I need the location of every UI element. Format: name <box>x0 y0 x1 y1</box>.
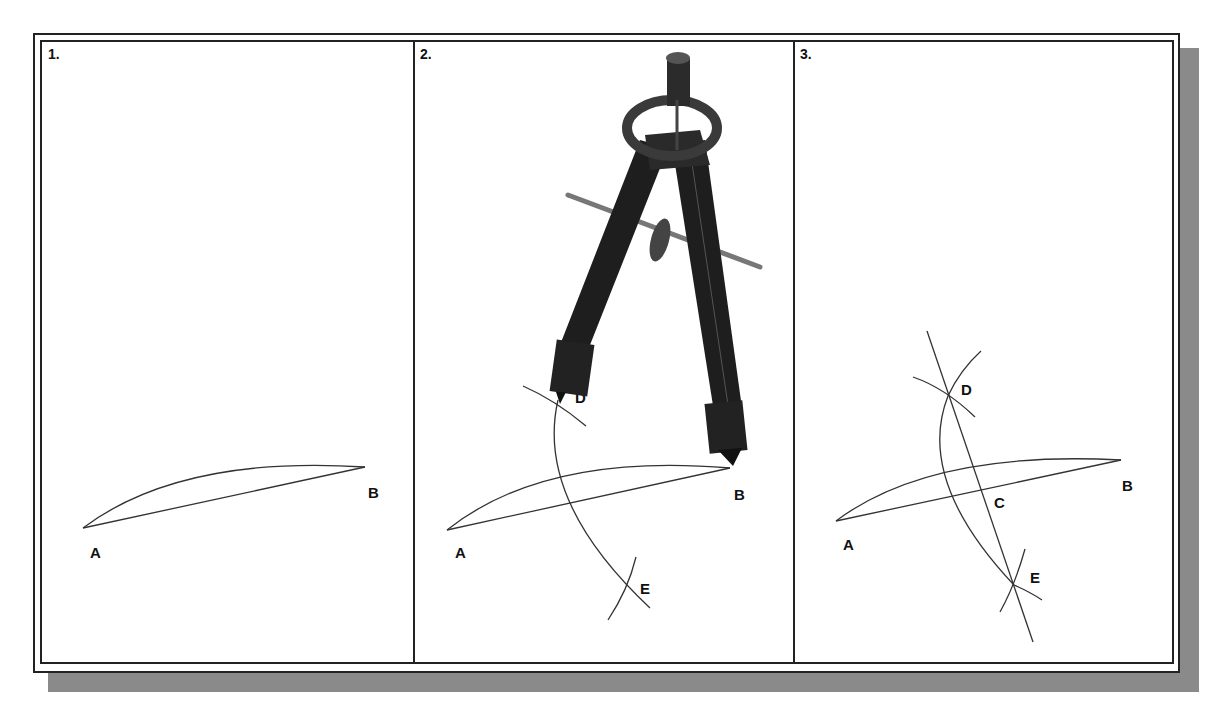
panel-3-label-c: C <box>994 494 1005 511</box>
panel-2-label-b: B <box>734 486 745 503</box>
panel-3-label-b: B <box>1122 477 1133 494</box>
panel-1-label-a: A <box>90 544 101 561</box>
panel-2-arc-and-chord <box>447 386 730 620</box>
panel-2-label-e: E <box>640 580 650 597</box>
panel-3-bisector-line <box>927 331 1033 642</box>
panel-2-arc-mark-e <box>608 557 636 620</box>
panel-1-arc-and-chord <box>83 465 365 528</box>
panel-3-label-a: A <box>843 536 854 553</box>
panel-3-label-e: E <box>1030 569 1040 586</box>
panel-3-construction <box>836 331 1121 642</box>
panel-3-label-d: D <box>961 381 972 398</box>
panel-1-label-b: B <box>368 484 379 501</box>
panel-2-label-a: A <box>455 544 466 561</box>
diagram-canvas: A B A B D E <box>0 0 1221 707</box>
